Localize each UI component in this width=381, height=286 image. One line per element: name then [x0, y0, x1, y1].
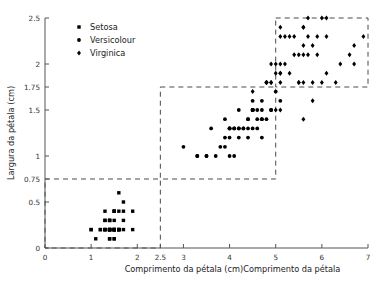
series-setosa: [89, 191, 134, 240]
data-point: [223, 117, 227, 121]
legend-label: Versicolour: [90, 35, 136, 45]
data-point: [315, 52, 319, 57]
data-point: [260, 136, 264, 140]
ticks-layer: 0122.53456700.50.7511.51.7522.5: [24, 14, 370, 262]
data-point: [103, 210, 106, 213]
data-point: [352, 43, 356, 48]
data-point: [122, 228, 125, 231]
axis-titles-layer: Comprimento da pétala (cm)Comprimento da…: [6, 86, 340, 274]
data-point: [103, 219, 106, 222]
data-point: [246, 117, 250, 121]
data-point: [325, 34, 329, 39]
data-point: [228, 154, 232, 158]
data-point: [265, 117, 269, 121]
legend-item-setosa[interactable]: Setosa: [77, 22, 117, 32]
data-point: [255, 117, 259, 121]
data-point: [292, 52, 296, 57]
data-point: [205, 154, 209, 158]
data-point: [325, 71, 329, 76]
legend-label: Setosa: [90, 22, 118, 32]
data-points-layer: [89, 16, 365, 241]
data-point: [223, 136, 227, 140]
y-tick-label: 2: [35, 60, 40, 69]
data-point: [131, 210, 134, 213]
data-point: [297, 80, 301, 85]
data-point: [311, 98, 315, 103]
data-point: [301, 80, 305, 85]
data-point: [260, 108, 264, 112]
data-point: [214, 154, 218, 158]
data-point: [288, 71, 292, 76]
data-point: [301, 52, 305, 57]
data-point: [237, 108, 241, 112]
legend: SetosaVersicolourVirginica: [77, 22, 136, 58]
data-point: [122, 200, 125, 203]
data-point: [283, 62, 287, 67]
data-point: [251, 99, 255, 103]
data-point: [223, 145, 227, 149]
data-point: [269, 80, 273, 85]
data-point: [301, 25, 305, 30]
y-tick-label: 0.5: [29, 198, 40, 207]
data-point: [320, 16, 324, 21]
data-point: [338, 62, 342, 67]
data-point: [237, 126, 241, 130]
data-point: [274, 71, 278, 76]
data-point: [195, 154, 199, 158]
data-point: [315, 34, 319, 39]
chart-canvas: 0122.53456700.50.7511.51.7522.5 Comprime…: [0, 0, 381, 286]
y-tick-label: 0: [35, 244, 40, 253]
data-point: [113, 219, 116, 222]
data-point: [113, 228, 116, 231]
scatter-plot-figure: 0122.53456700.50.7511.51.7522.5 Comprime…: [0, 0, 381, 286]
data-point: [320, 80, 324, 85]
x-tick-label: 1: [89, 253, 94, 262]
x-tick-label: 4: [227, 253, 232, 262]
versicolour-region: [160, 87, 275, 179]
y-tick-label: 1.5: [29, 106, 40, 115]
data-point: [260, 99, 264, 103]
setosa-region: [45, 179, 160, 248]
data-point: [251, 126, 255, 130]
data-point: [265, 80, 269, 85]
data-point: [232, 154, 236, 158]
data-point: [306, 16, 310, 21]
data-point: [311, 43, 315, 48]
data-point: [242, 126, 246, 130]
data-point: [108, 228, 111, 231]
data-point: [278, 108, 282, 113]
data-point: [278, 71, 282, 76]
data-point: [103, 228, 106, 231]
data-point: [228, 126, 232, 130]
data-point: [325, 16, 329, 21]
data-point: [89, 228, 92, 231]
data-point: [274, 108, 278, 113]
data-point: [297, 52, 301, 57]
data-point: [99, 228, 102, 231]
data-point: [251, 89, 255, 94]
data-point: [306, 34, 310, 39]
y-tick-label: 1.75: [24, 83, 40, 92]
data-point: [232, 126, 236, 130]
diamond-marker-icon: [77, 51, 81, 56]
data-point: [278, 25, 282, 30]
data-point: [113, 210, 116, 213]
data-point: [288, 34, 292, 39]
data-point: [117, 210, 120, 213]
data-point: [117, 228, 120, 231]
y-tick-label: 1: [35, 152, 40, 161]
x-tick-label: 5: [273, 253, 278, 262]
x-tick-label: 2: [135, 253, 140, 262]
data-point: [246, 136, 250, 140]
x-tick-label: 6: [320, 253, 325, 262]
square-marker-icon: [77, 25, 80, 28]
data-point: [108, 237, 111, 240]
data-point: [274, 90, 278, 94]
data-point: [122, 210, 125, 213]
legend-item-virginica[interactable]: Virginica: [77, 48, 125, 58]
series-virginica: [251, 16, 366, 122]
data-point: [182, 145, 186, 149]
data-point: [260, 117, 264, 121]
legend-item-versicolour[interactable]: Versicolour: [77, 35, 136, 45]
x-tick-label: 2.5: [155, 253, 166, 262]
